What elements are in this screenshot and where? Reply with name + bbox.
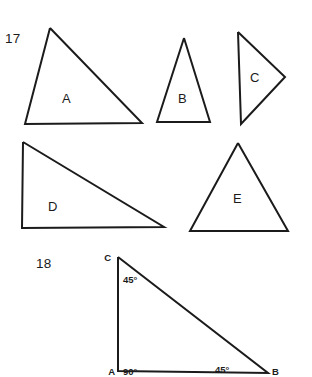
angle-label-c: 45° (123, 274, 138, 285)
vertex-label-a: A (108, 366, 115, 377)
triangle-e-label: E (233, 191, 242, 206)
triangle-b-shape (157, 38, 210, 122)
triangle-a-shape (25, 28, 142, 124)
triangle-e-shape (190, 143, 288, 231)
triangle-a-label: A (62, 91, 71, 106)
vertex-label-b: B (272, 366, 279, 377)
angle-label-a: 90° (123, 366, 138, 377)
geometry-figures-svg: 17 A B C D E 18 C A B 45° 90° 45° (0, 0, 312, 377)
vertex-label-c: C (104, 252, 111, 263)
worksheet-page: 17 A B C D E 18 C A B 45° 90° 45° (0, 0, 312, 377)
triangle-abc-shape (118, 257, 268, 373)
triangle-b-label: B (178, 91, 187, 106)
problem-number-18: 18 (36, 256, 51, 271)
angle-label-b: 45° (215, 364, 230, 375)
triangle-d-shape (22, 142, 164, 228)
triangle-d-label: D (48, 199, 57, 214)
problem-number-17: 17 (5, 31, 20, 46)
triangle-c-shape (238, 32, 285, 124)
triangle-c-label: C (250, 70, 259, 85)
